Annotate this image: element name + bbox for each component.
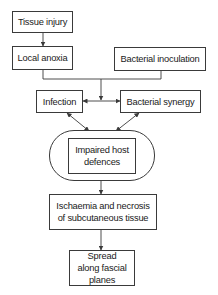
node-label: Impaired host defences — [75, 144, 129, 168]
arrow-infection-defences — [67, 113, 89, 131]
node-label: Bacterial synergy — [127, 96, 195, 108]
node-bacterial-synergy: Bacterial synergy — [120, 90, 201, 113]
node-label: Spread along fascial planes — [76, 250, 128, 286]
node-label: Infection — [43, 96, 76, 108]
node-label: Bacterial inoculation — [120, 53, 199, 65]
node-label: Tissue injury — [18, 16, 67, 28]
node-bacterial-inoculation: Bacterial inoculation — [114, 47, 206, 71]
node-local-anoxia: Local anoxia — [12, 46, 73, 70]
node-impaired-host-defences: Impaired host defences — [68, 138, 136, 174]
node-ischaemia-necrosis: Ischaemia and necrosis of subcutaneous t… — [49, 194, 157, 230]
node-label: Local anoxia — [18, 52, 68, 64]
node-infection: Infection — [36, 90, 83, 113]
node-tissue-injury: Tissue injury — [12, 11, 73, 33]
node-label: Ischaemia and necrosis of subcutaneous t… — [54, 200, 152, 224]
arrow-synergy-defences — [116, 113, 139, 131]
merge-line — [43, 70, 161, 79]
node-spread-fascial-planes: Spread along fascial planes — [69, 250, 135, 286]
